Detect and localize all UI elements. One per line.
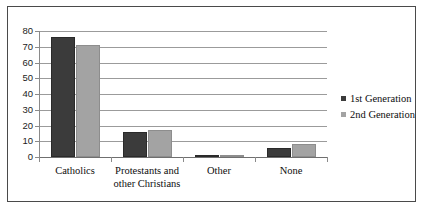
x-tick [327,157,328,162]
bar [148,130,172,157]
y-axis-tick-label: 20 [9,121,33,130]
y-axis-tick-label: 70 [9,42,33,51]
x-axis-category-label-line: other Christians [97,178,197,191]
x-tick [39,157,40,162]
x-tick [183,157,184,162]
y-tick-50 [35,78,40,79]
y-tick-10 [35,141,40,142]
chart-legend: 1st Generation2nd Generation [341,90,415,122]
y-axis-tick-label: 40 [9,89,33,98]
bar [123,132,147,157]
bars-layer [39,31,327,157]
legend-label: 2nd Generation [350,109,415,120]
legend-item: 2nd Generation [341,106,415,122]
y-axis-tick-label: 50 [9,73,33,82]
y-tick-60 [35,63,40,64]
x-axis-category-label: None [241,165,341,178]
y-axis-tick-label: 10 [9,136,33,145]
x-tick [255,157,256,162]
y-tick-70 [35,47,40,48]
legend-item: 1st Generation [341,90,415,106]
bar [267,148,291,157]
y-tick-20 [35,126,40,127]
x-axis-category-label-line: None [241,165,341,178]
legend-label: 1st Generation [350,93,412,104]
y-tick-80 [35,31,40,32]
x-tick [111,157,112,162]
y-tick-40 [35,94,40,95]
chart-frame: 01020304050607080 1st Generation2nd Gene… [7,6,416,202]
legend-swatch-icon [341,96,346,101]
bar [220,155,244,157]
y-axis-tick-label: 60 [9,58,33,67]
bar [195,155,219,157]
y-axis-tick-label: 80 [9,26,33,35]
bar [292,144,316,157]
y-tick-30 [35,110,40,111]
bar [51,37,75,157]
y-axis-tick-label: 30 [9,105,33,114]
bar [76,45,100,157]
legend-swatch-icon [341,112,346,117]
y-axis-tick-label: 0 [9,152,33,161]
